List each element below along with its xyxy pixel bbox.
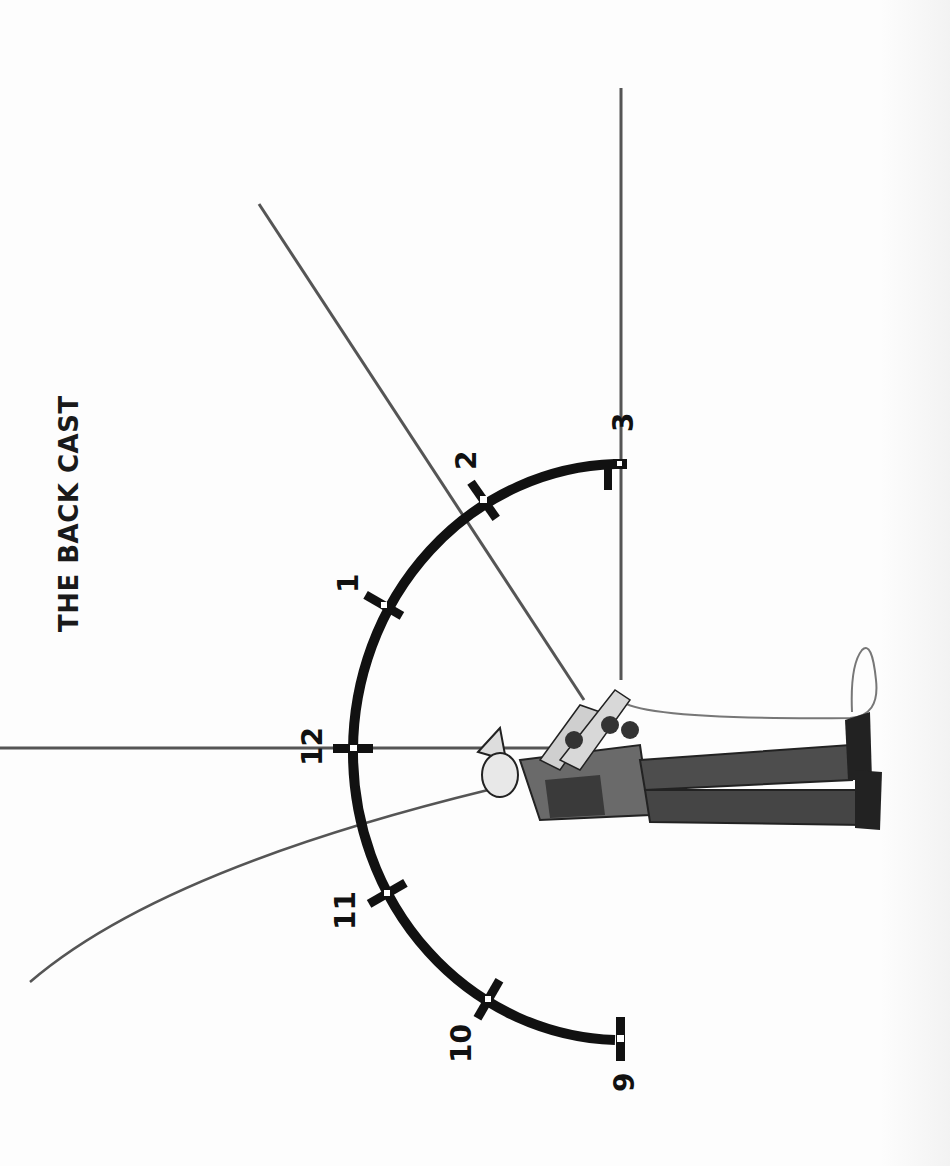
tick-3 [604, 459, 627, 490]
diagram-title: THE BACK CAST [54, 395, 84, 632]
clock-label-12: 12 [296, 727, 329, 766]
clock-label-10: 10 [445, 1024, 478, 1063]
clock-label-3: 3 [607, 413, 640, 432]
clock-label-9: 9 [608, 1073, 641, 1092]
angler-figure [478, 690, 882, 830]
clock-label-2: 2 [450, 451, 483, 470]
tick-9 [616, 1017, 625, 1061]
page-edge-shadow [880, 0, 950, 1166]
clock-label-1: 1 [332, 574, 365, 593]
rod-flexed-back [30, 790, 488, 982]
tick-12 [333, 744, 373, 753]
rod-at-2 [259, 204, 584, 700]
clock-label-11: 11 [329, 891, 362, 930]
back-cast-diagram: THE BACK CAST [0, 0, 950, 1166]
fly-line [620, 648, 876, 718]
